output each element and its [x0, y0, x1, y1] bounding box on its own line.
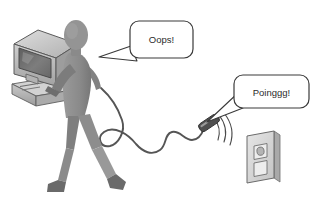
- person-rear-thigh: [66, 116, 80, 150]
- power-cord: [100, 88, 204, 153]
- illustration-svg: Oops! Poinggg!: [0, 0, 325, 220]
- person-front-thigh: [78, 114, 102, 150]
- speech-bubble-poinggg: Poinggg!: [207, 75, 309, 122]
- person-rear-foot: [47, 180, 66, 192]
- person-head-highlight: [66, 23, 78, 39]
- speech-bubble-oops-text: Oops!: [149, 34, 174, 45]
- wall-outlet-edge: [274, 131, 280, 182]
- wall-outlet-socket-lower: [254, 161, 267, 177]
- person-front-shin: [92, 146, 116, 179]
- illustration-canvas: Oops! Poinggg!: [0, 0, 325, 220]
- person-rear-shin: [58, 148, 74, 182]
- speech-bubble-oops: Oops!: [99, 21, 193, 61]
- speech-bubble-poinggg-text: Poinggg!: [253, 87, 291, 98]
- wall-outlet-socket-upper-hole: [256, 147, 264, 156]
- person-torso: [63, 52, 91, 118]
- wall-outlet: [247, 131, 280, 183]
